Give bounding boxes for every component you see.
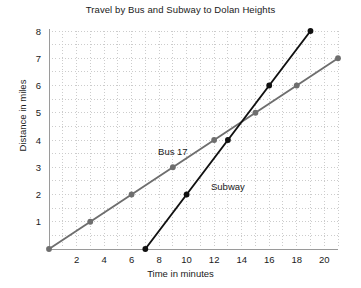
y-tick-label: 1 xyxy=(36,216,41,227)
data-point xyxy=(308,28,314,34)
data-point xyxy=(225,137,231,143)
series-bus-17 xyxy=(46,55,341,252)
y-tick-label: 6 xyxy=(36,80,41,91)
x-tick-label: 18 xyxy=(291,254,302,265)
x-tick-label: 12 xyxy=(209,254,220,265)
data-point xyxy=(170,164,176,170)
y-tick-label: 8 xyxy=(36,26,41,37)
data-point xyxy=(46,246,52,252)
y-tick-label: 2 xyxy=(36,189,41,200)
plot-area: 12345678 2468101214161820 Bus 17Subway xyxy=(0,0,361,288)
y-tick-labels: 12345678 xyxy=(36,26,41,228)
x-tick-label: 10 xyxy=(181,254,192,265)
x-tick-label: 2 xyxy=(74,254,79,265)
data-point xyxy=(129,192,135,198)
data-point xyxy=(142,246,148,252)
chart-container: Travel by Bus and Subway to Dolan Height… xyxy=(0,0,361,288)
data-point xyxy=(87,219,93,225)
y-tick-label: 3 xyxy=(36,162,41,173)
x-tick-label: 6 xyxy=(129,254,134,265)
grid-lines xyxy=(49,31,338,249)
axis-lines xyxy=(49,29,338,249)
data-point xyxy=(211,137,217,143)
x-tick-labels: 2468101214161820 xyxy=(74,254,330,265)
y-tick-label: 4 xyxy=(36,135,41,146)
x-tick-label: 8 xyxy=(156,254,161,265)
data-point xyxy=(184,192,190,198)
x-tick-label: 14 xyxy=(236,254,247,265)
data-point xyxy=(253,110,259,116)
data-point xyxy=(335,55,341,61)
series-label: Bus 17 xyxy=(158,146,188,157)
y-tick-label: 5 xyxy=(36,107,41,118)
data-point xyxy=(294,83,300,89)
x-tick-label: 4 xyxy=(101,254,106,265)
series-label: Subway xyxy=(211,181,245,192)
y-tick-label: 7 xyxy=(36,53,41,64)
x-tick-label: 16 xyxy=(264,254,275,265)
data-point xyxy=(266,83,272,89)
x-tick-label: 20 xyxy=(319,254,330,265)
